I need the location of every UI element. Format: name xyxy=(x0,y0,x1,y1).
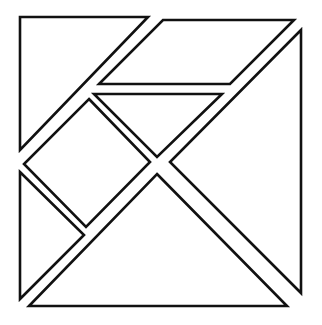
tangram-diagram xyxy=(0,0,322,325)
